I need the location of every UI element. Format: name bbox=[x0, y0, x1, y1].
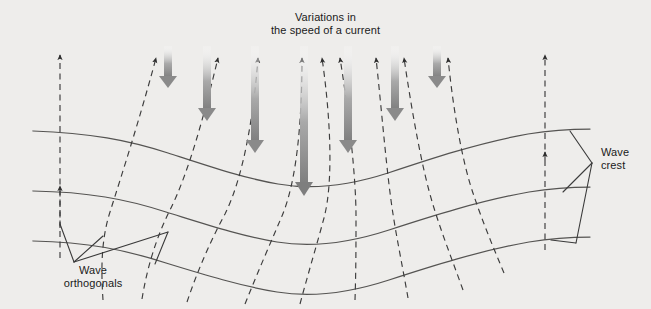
leader-crest-d bbox=[551, 240, 576, 243]
leader-orthogonals-d bbox=[155, 232, 168, 264]
wave-crest-line-1 bbox=[33, 129, 590, 187]
current-arrow-2 bbox=[198, 46, 216, 121]
page-title: Variations in the speed of a current bbox=[0, 11, 651, 37]
current-arrow-7 bbox=[428, 46, 446, 88]
wave-orthogonal-4 bbox=[187, 58, 258, 302]
leader-crest-a bbox=[570, 131, 592, 163]
current-arrow-4 bbox=[295, 46, 313, 196]
leader-crest-c bbox=[576, 163, 592, 243]
leader-orthogonals-b bbox=[74, 236, 103, 262]
current-arrow-3 bbox=[246, 46, 264, 153]
wave-crest-label: Wave crest bbox=[601, 146, 651, 172]
wave-crest-line-2 bbox=[33, 187, 590, 245]
wave-orthogonal-9 bbox=[404, 58, 463, 290]
current-speed-arrows bbox=[159, 46, 446, 196]
current-arrow-5 bbox=[339, 46, 357, 153]
diagram-canvas bbox=[0, 0, 651, 309]
wave-refraction-diagram: Variations in the speed of a current Wav… bbox=[0, 0, 651, 309]
current-arrow-6 bbox=[386, 46, 404, 121]
wave-orthogonal-10 bbox=[448, 58, 504, 273]
wave-orthogonals-label: Wave orthogonals bbox=[38, 264, 148, 290]
current-arrow-1 bbox=[159, 46, 177, 88]
leader-orthogonals-c bbox=[74, 232, 168, 262]
